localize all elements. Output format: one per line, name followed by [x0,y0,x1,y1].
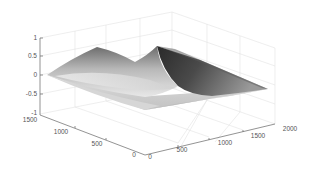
surface-plot: 1 0.5 0 -0.5 -1 1500 1000 500 0 0 500 10… [0,0,311,170]
y-tick-0: 0 [132,151,136,158]
x-tick-1500: 1500 [251,132,266,139]
y-tick-1000: 1000 [54,128,69,135]
x-tick-labels: 0 500 1000 1500 2000 [148,125,297,160]
x-tick-1000: 1000 [218,139,233,146]
z-tick-0: 0 [33,71,37,78]
x-tick-500: 500 [177,146,188,153]
x-tick-2000: 2000 [283,125,298,132]
y-tick-500: 500 [92,140,103,147]
surface [47,46,268,110]
y-axis-line [40,115,145,155]
z-tick-minus-1: -1 [31,109,37,116]
z-tick-1: 1 [33,34,37,41]
y-tick-1500: 1500 [23,116,38,123]
z-tick-labels: 1 0.5 0 -0.5 -1 [26,34,38,116]
z-tick-0.5: 0.5 [28,52,37,59]
z-tick-minus-0.5: -0.5 [26,90,38,97]
x-tick-0: 0 [148,153,152,160]
x-axis-line [145,124,275,155]
